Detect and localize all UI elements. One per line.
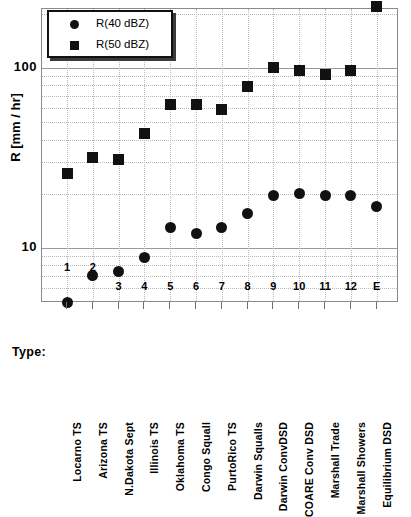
x-axis-tick [195,302,196,309]
data-point-marker [191,228,202,239]
x-axis-category-label: COARE Conv DSD [303,422,315,517]
data-point-marker [345,65,356,76]
index-label: 9 [262,281,284,292]
data-point-marker [191,99,202,110]
gridline-minor-y [42,194,397,195]
data-point-marker [345,190,356,201]
x-axis-category-label: Congo Squall [200,422,212,492]
gridline-x [248,9,249,301]
x-axis-tick [66,302,67,309]
legend-entry-r40: R(40 dBZ) [49,14,171,36]
x-axis-category-label: Locarno TS [71,422,83,482]
data-point-marker [268,190,279,201]
gridline-x [351,9,352,301]
x-axis-tick [247,302,248,309]
x-axis-category-label: PurtoRico TS [226,422,238,491]
index-label: 4 [133,281,155,292]
x-axis-category-labels: Locarno TSArizona TSN.Dakota SeptIllinoi… [0,318,411,425]
x-axis-tick [169,302,170,309]
chart-legend: R(40 dBZ) R(50 dBZ) [47,10,173,58]
x-axis-tick [298,302,299,309]
data-point-marker [371,1,382,12]
x-axis-category-label: Marshall Showers [355,422,367,514]
gridline-major-y [42,68,397,69]
x-axis-category-label: Oklahoma TS [174,422,186,491]
index-label: 1 [56,262,78,273]
data-point-marker [242,81,253,92]
legend-label-r40: R(40 dBZ) [96,17,149,29]
x-axis-category-label: Equilibrium DSD [381,422,393,508]
x-axis-tick [272,302,273,309]
gridline-x [196,9,197,301]
gridline-minor-y [42,122,397,123]
index-label: 10 [288,281,310,292]
x-axis-tick [118,302,119,309]
data-point-marker [113,154,124,165]
y-axis-title: R [mm / hr] [8,68,23,188]
data-point-marker [62,168,73,179]
data-point-marker [242,208,253,219]
gridline-x [377,9,378,301]
data-point-marker [139,252,150,263]
legend-square-marker-icon [70,41,79,50]
data-point-marker [294,188,305,199]
legend-entry-r50: R(50 dBZ) [49,35,171,57]
x-axis-category-label: Marshall Trade [329,422,341,498]
index-label: 6 [185,281,207,292]
gridline-minor-y [42,96,397,97]
index-label: 3 [108,281,130,292]
index-label: 12 [340,281,362,292]
data-point-marker [62,297,73,308]
gridline-minor-y [42,85,397,86]
index-label: 2 [82,262,104,273]
gridline-minor-y [42,140,397,141]
x-axis-tick [350,302,351,309]
x-axis-category-label: Darwin ConvDSD [277,422,289,511]
index-label: E [366,281,388,292]
gridline-major-y [42,248,397,249]
x-axis-category-label: Illinois TS [148,422,160,474]
x-axis-tick [143,302,144,309]
index-label: 7 [211,281,233,292]
data-point-marker [320,69,331,80]
x-axis-category-label: N.Dakota Sept [123,422,135,496]
data-point-marker [216,222,227,233]
gridline-x [222,9,223,301]
data-point-marker [268,62,279,73]
data-point-marker [294,65,305,76]
gridline-minor-y [42,256,397,257]
legend-label-r50: R(50 dBZ) [96,38,149,50]
gridline-minor-y [42,76,397,77]
gridline-x [325,9,326,301]
legend-circle-marker-icon [70,20,79,29]
y-axis-tick-label: 100 [1,60,37,73]
x-axis-tick [324,302,325,309]
x-axis-tick [376,302,377,309]
gridline-x [299,9,300,301]
data-point-marker [87,152,98,163]
index-label: 8 [237,281,259,292]
index-label: 5 [159,281,181,292]
data-point-marker [139,128,150,139]
data-point-marker [165,99,176,110]
data-point-marker [371,201,382,212]
data-point-marker [165,222,176,233]
gridline-x [273,9,274,301]
x-axis-tick [221,302,222,309]
x-axis-category-label: Darwin Squalls [252,422,264,500]
index-label: 11 [314,281,336,292]
data-point-marker [216,104,227,115]
x-axis-category-label: Arizona TS [97,422,109,479]
y-axis-tick-label: 10 [1,240,37,253]
x-axis-tick [92,302,93,309]
data-point-marker [320,190,331,201]
